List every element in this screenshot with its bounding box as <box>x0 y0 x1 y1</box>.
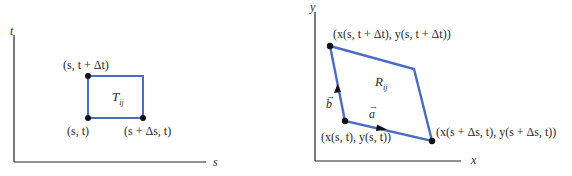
vector-a-label: →a <box>369 107 375 121</box>
t-axis-label: t <box>10 24 13 38</box>
corner-label-s-ds-t: (s + Δs, t) <box>124 124 171 138</box>
corner-label-s-t-dt: (s, t + Δt) <box>63 58 109 72</box>
corner-label-xy-s-t: (x(s, t), y(s, t)) <box>321 130 391 144</box>
point-xy-s-t-dt <box>327 43 333 49</box>
corner-label-s-t: (s, t) <box>67 124 89 138</box>
point-s-t <box>85 115 91 121</box>
point-s-ds-t <box>140 115 146 121</box>
region-T-label: Tij <box>112 90 124 110</box>
point-xy-s-t <box>342 118 348 124</box>
point-s-t-dt <box>85 73 91 79</box>
corner-label-xy-s-t-dt: (x(s, t + Δt), y(s, t + Δt)) <box>333 27 451 41</box>
s-axis-label: s <box>213 155 218 169</box>
vector-b-label: →b <box>326 97 332 111</box>
diagram-canvas <box>0 0 572 176</box>
corner-label-xy-s-ds-t: (x(s + Δs, t), y(s + Δs, t)) <box>436 125 556 139</box>
y-axis-label: y <box>310 0 315 14</box>
arrow-b-icon <box>334 84 341 93</box>
x-axis-label: x <box>471 153 476 167</box>
region-R-label: Rij <box>375 75 387 95</box>
point-xy-s-ds-t <box>429 138 435 144</box>
